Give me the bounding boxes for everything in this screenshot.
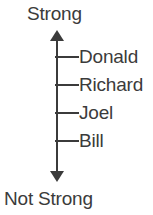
tick-mark-icon	[55, 56, 79, 58]
tick-label: Richard	[79, 74, 143, 95]
vertical-axis	[50, 30, 64, 182]
strength-scale-figure: Strong DonaldRichardJoelBill Not Strong	[0, 0, 153, 215]
tick-mark-icon	[55, 112, 79, 114]
tick-label: Joel	[79, 102, 113, 123]
axis-bottom-label: Not Strong	[4, 188, 93, 209]
arrow-down-icon	[50, 171, 64, 182]
axis-top-label: Strong	[27, 3, 82, 24]
tick-label: Donald	[79, 46, 138, 67]
tick-label: Bill	[79, 130, 104, 151]
tick-mark-icon	[55, 140, 79, 142]
tick-mark-icon	[55, 84, 79, 86]
